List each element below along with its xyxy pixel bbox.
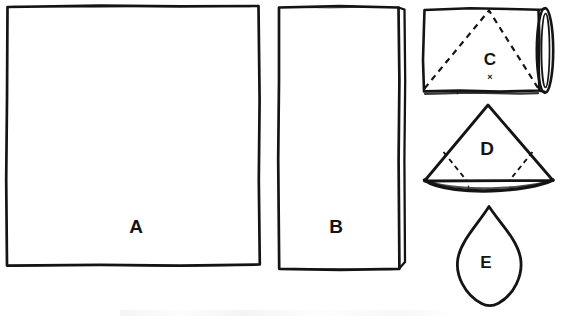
shape-a-group: A — [6, 6, 260, 267]
shape-d-label: D — [480, 138, 494, 159]
shape-c-group: C × — [423, 8, 553, 94]
shape-d-dashed-fold-left — [444, 152, 468, 181]
shape-e-label: E — [480, 253, 491, 272]
shape-a-label: A — [129, 216, 143, 237]
shape-c-x-mark: × — [487, 72, 492, 82]
shape-d-group: D — [425, 105, 554, 191]
shape-c-label: C — [484, 50, 496, 69]
shape-b-group: B — [278, 6, 405, 270]
figure-root: A B C × — [0, 0, 571, 321]
shape-e-group: E — [457, 207, 521, 306]
shape-c-roll-inner — [542, 14, 550, 88]
shape-d-dashed-fold-right — [509, 152, 533, 181]
shape-figure-canvas: A B C × — [0, 0, 571, 321]
shape-c-dashed-triangle — [425, 11, 539, 89]
shape-a-bottom-texture — [14, 265, 252, 266]
shape-b-label: B — [329, 216, 343, 237]
shape-c-bottom-lip — [425, 93, 538, 94]
